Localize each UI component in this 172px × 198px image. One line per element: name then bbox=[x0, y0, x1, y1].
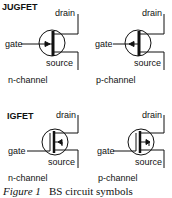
igfet-n-drain-label: drain bbox=[56, 110, 76, 120]
igfet-title: IGFET bbox=[7, 111, 34, 121]
jugfet-title: JUGFET bbox=[2, 2, 38, 12]
jugfet-p-source-label: source bbox=[134, 58, 161, 68]
jugfet-n-gate-label: gate bbox=[5, 39, 23, 49]
jugfet-n-source-label: source bbox=[46, 58, 73, 68]
igfet-n-source-label: source bbox=[48, 157, 75, 167]
igfet-n-channel-label: n-channel bbox=[8, 173, 48, 183]
figure-number: Figure 1 bbox=[3, 185, 41, 197]
jugfet-p-channel-label: p-channel bbox=[96, 75, 136, 85]
igfet-p-source-label: source bbox=[135, 157, 162, 167]
figure-caption: Figure 1 BS circuit symbols bbox=[3, 185, 133, 197]
jugfet-n-channel-label: n-channel bbox=[8, 75, 48, 85]
igfet-p-channel-label: p-channel bbox=[98, 173, 138, 183]
igfet-p-drain-label: drain bbox=[142, 110, 162, 120]
jugfet-p-gate-label: gate bbox=[95, 39, 113, 49]
jugfet-n-drain-label: drain bbox=[55, 8, 75, 18]
igfet-n-gate-label: gate bbox=[8, 146, 26, 156]
igfet-p-gate-label: gate bbox=[97, 146, 115, 156]
jugfet-p-drain-label: drain bbox=[142, 8, 162, 18]
fet-symbols-diagram bbox=[0, 0, 172, 198]
figure-caption-text: BS circuit symbols bbox=[49, 185, 133, 197]
